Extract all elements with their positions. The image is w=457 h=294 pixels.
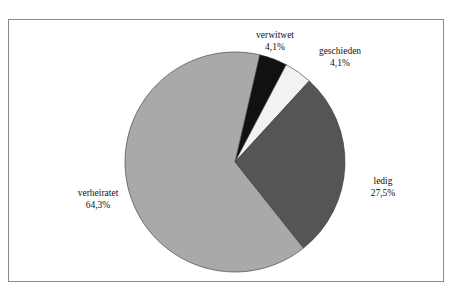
label-geschieden-name: geschieden bbox=[305, 45, 375, 57]
label-verwitwet-value: 4,1% bbox=[245, 41, 305, 53]
label-ledig-value: 27,5% bbox=[358, 187, 408, 199]
label-geschieden-value: 4,1% bbox=[305, 57, 375, 69]
label-verheiratet-value: 64,3% bbox=[58, 199, 138, 211]
label-verwitwet: verwitwet 4,1% bbox=[245, 29, 305, 53]
label-ledig: ledig 27,5% bbox=[358, 175, 408, 199]
label-verheiratet: verheiratet 64,3% bbox=[58, 187, 138, 211]
pie-chart bbox=[0, 0, 457, 294]
label-geschieden: geschieden 4,1% bbox=[305, 45, 375, 69]
label-verheiratet-name: verheiratet bbox=[58, 187, 138, 199]
label-verwitwet-name: verwitwet bbox=[245, 29, 305, 41]
label-ledig-name: ledig bbox=[358, 175, 408, 187]
